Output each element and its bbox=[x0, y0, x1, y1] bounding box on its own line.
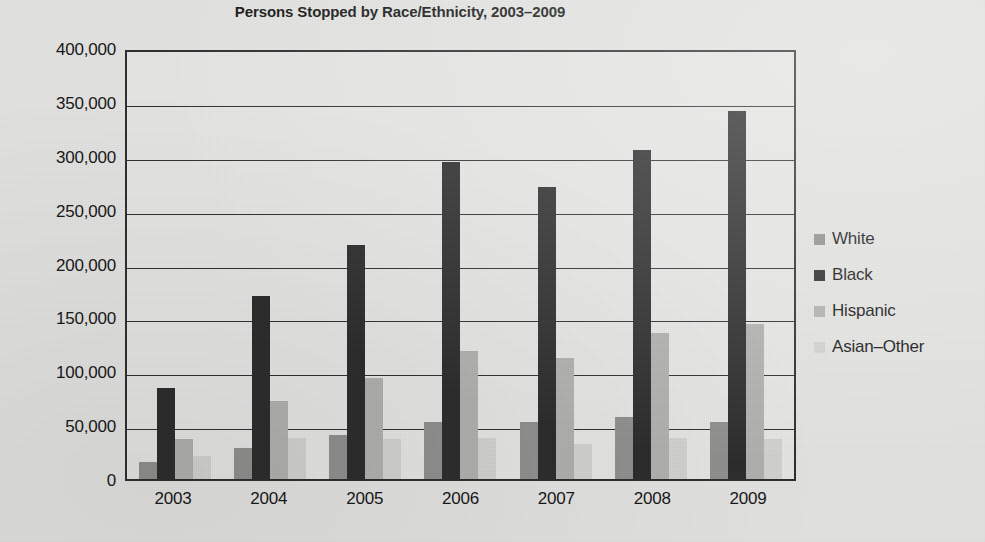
legend-item-white: White bbox=[814, 221, 982, 257]
chart-figure: Persons Stopped by Race/Ethnicity, 2003–… bbox=[0, 0, 985, 542]
legend-label: Hispanic bbox=[832, 301, 896, 321]
y-axis-tick-label: 0 bbox=[107, 472, 116, 489]
bar-white-2005 bbox=[329, 435, 347, 479]
y-axis-tick-label: 200,000 bbox=[56, 257, 116, 274]
bar-white-2004 bbox=[234, 448, 252, 479]
legend-swatch-icon bbox=[814, 306, 825, 317]
y-axis-tick-label: 50,000 bbox=[65, 418, 116, 435]
bar-hispanic-2009 bbox=[746, 324, 764, 480]
legend-label: White bbox=[832, 229, 874, 249]
bar-white-2006 bbox=[424, 422, 442, 479]
x-axis-tick-label: 2005 bbox=[317, 489, 413, 509]
bar-black-2006 bbox=[442, 162, 460, 479]
bar-group bbox=[127, 52, 222, 479]
bar-black-2003 bbox=[157, 388, 175, 479]
bar-black-2009 bbox=[728, 111, 746, 479]
bar-asian-other-2003 bbox=[193, 456, 211, 479]
bar-groups bbox=[127, 52, 794, 479]
y-axis-tick-label: 100,000 bbox=[56, 364, 116, 381]
bar-group bbox=[318, 52, 413, 479]
x-axis-tick-label: 2008 bbox=[604, 489, 700, 509]
y-axis-tick-label: 300,000 bbox=[56, 149, 116, 166]
bar-black-2007 bbox=[538, 187, 556, 479]
x-axis-tick-label: 2009 bbox=[700, 489, 796, 509]
x-axis-tick-label: 2003 bbox=[125, 489, 221, 509]
plot-area bbox=[125, 50, 796, 481]
legend-label: Black bbox=[832, 265, 873, 285]
y-axis-tick-label: 350,000 bbox=[56, 95, 116, 112]
legend-swatch-icon bbox=[814, 234, 825, 245]
bar-group bbox=[413, 52, 508, 479]
legend-item-black: Black bbox=[814, 257, 982, 293]
bar-black-2004 bbox=[252, 296, 270, 479]
bar-asian-other-2009 bbox=[764, 439, 782, 479]
bar-black-2008 bbox=[633, 150, 651, 479]
x-axis-tick-label: 2006 bbox=[413, 489, 509, 509]
bar-asian-other-2008 bbox=[669, 438, 687, 479]
chart-legend: WhiteBlackHispanicAsian–Other bbox=[814, 221, 982, 365]
legend-swatch-icon bbox=[814, 342, 825, 353]
bar-group bbox=[603, 52, 698, 479]
y-axis-tick-label: 250,000 bbox=[56, 203, 116, 220]
bar-hispanic-2003 bbox=[175, 439, 193, 479]
bar-white-2008 bbox=[615, 417, 633, 479]
bar-hispanic-2004 bbox=[270, 401, 288, 479]
legend-swatch-icon bbox=[814, 270, 825, 281]
y-axis: 400,000350,000300,000250,000200,000150,0… bbox=[0, 0, 116, 542]
legend-item-hispanic: Hispanic bbox=[814, 293, 982, 329]
bar-white-2009 bbox=[710, 422, 728, 479]
legend-item-asian-other: Asian–Other bbox=[814, 329, 982, 365]
bar-asian-other-2006 bbox=[478, 438, 496, 479]
bar-hispanic-2006 bbox=[460, 351, 478, 479]
bar-group bbox=[699, 52, 794, 479]
x-axis-tick-label: 2004 bbox=[221, 489, 317, 509]
bar-asian-other-2007 bbox=[574, 444, 592, 479]
bar-asian-other-2004 bbox=[288, 438, 306, 479]
bar-asian-other-2005 bbox=[383, 439, 401, 479]
bar-hispanic-2008 bbox=[651, 333, 669, 479]
y-axis-tick-label: 150,000 bbox=[56, 310, 116, 327]
y-axis-tick-label: 400,000 bbox=[56, 41, 116, 58]
bar-hispanic-2007 bbox=[556, 358, 574, 479]
bar-group bbox=[222, 52, 317, 479]
x-axis: 2003200420052006200720082009 bbox=[125, 489, 796, 509]
x-axis-tick-label: 2007 bbox=[508, 489, 604, 509]
bar-hispanic-2005 bbox=[365, 378, 383, 479]
bar-group bbox=[508, 52, 603, 479]
bar-white-2007 bbox=[520, 422, 538, 479]
bar-black-2005 bbox=[347, 245, 365, 479]
chart-title: Persons Stopped by Race/Ethnicity, 2003–… bbox=[0, 3, 800, 20]
bar-white-2003 bbox=[139, 462, 157, 479]
legend-label: Asian–Other bbox=[832, 337, 924, 357]
